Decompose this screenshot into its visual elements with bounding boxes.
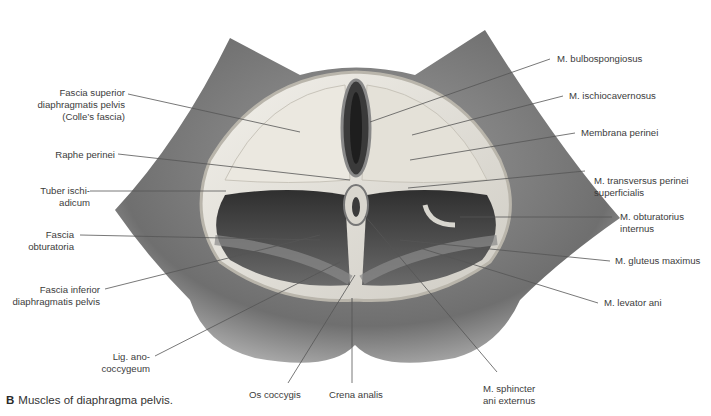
label-m-gluteus: M. gluteus maximus (615, 255, 700, 267)
caption-text: Muscles of diaphragma pelvis. (18, 394, 173, 406)
label-fascia-inferior: Fascia inferior diaphragmatis pelvis (13, 284, 100, 308)
label-m-bulbospongiosus: M. bulbospongiosus (557, 53, 642, 65)
label-m-obturatorius: M. obturatorius internus (620, 211, 684, 235)
label-m-ischiocavernosus: M. ischiocavernosus (569, 90, 656, 102)
label-membrana-perinei: Membrana perinei (581, 127, 658, 139)
label-m-sphincter: M. sphincter ani externus (483, 383, 535, 407)
label-fascia-superior: Fascia superior diaphragmatis pelvis (Co… (38, 87, 125, 123)
label-os-coccygis: Os coccygis (249, 389, 301, 401)
caption-letter: B (6, 394, 14, 406)
label-crena-analis: Crena analis (329, 389, 383, 401)
label-m-levator: M. levator ani (604, 297, 662, 309)
figure-caption: BMuscles of diaphragma pelvis. (6, 394, 173, 406)
label-raphe-perinei: Raphe perinei (55, 149, 115, 161)
label-lig-anococcygeum: Lig. ano- coccygeum (101, 351, 150, 375)
label-tuber-ischiadicum: Tuber ischi- adicum (40, 185, 90, 209)
anatomy-figure: Fascia superior diaphragmatis pelvis (Co… (0, 0, 711, 416)
label-m-transversus: M. transversus perinei superficialis (594, 175, 688, 199)
label-fascia-obturatoria: Fascia obturatoria (28, 229, 74, 253)
